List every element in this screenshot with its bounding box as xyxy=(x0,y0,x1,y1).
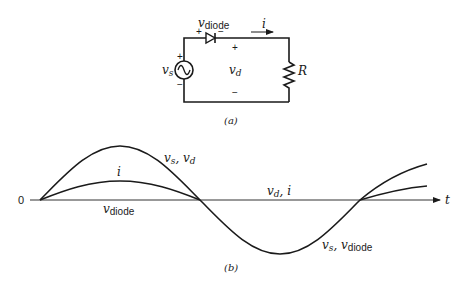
caption-a: (a) xyxy=(224,115,238,126)
vs-vd-label: vs, vd xyxy=(164,151,196,166)
vd-i-label: vd, i xyxy=(267,184,291,199)
diode-plus-sign: + xyxy=(196,26,202,37)
load-minus-sign: − xyxy=(232,87,238,98)
waveform-plot: 0 t vs, vd i vdiode vd, i vs, vdiode (b) xyxy=(18,146,450,273)
wire-top-left xyxy=(184,38,206,61)
i-label: i xyxy=(117,165,121,179)
caption-b: (b) xyxy=(224,262,238,273)
diagram-canvas: vdiode + − i + − vs + vd − R (a) 0 t vs,… xyxy=(0,0,459,283)
origin-label: 0 xyxy=(18,194,24,206)
ac-source-icon xyxy=(175,61,193,79)
load-voltage-label: vd xyxy=(229,63,242,78)
current-label: i xyxy=(262,17,266,31)
vs-vdiode-label: vs, vdiode xyxy=(322,238,373,253)
i-curve xyxy=(40,181,200,200)
load-plus-sign: + xyxy=(232,42,238,53)
vdiode-label: vdiode xyxy=(103,202,135,217)
time-axis-label: t xyxy=(445,193,450,207)
source-minus-sign: − xyxy=(177,79,183,90)
source-plus-sign: + xyxy=(177,51,183,62)
wire-top-right xyxy=(215,38,289,62)
resistor-label: R xyxy=(297,64,307,78)
diode-minus-sign: − xyxy=(218,26,224,37)
resistor-icon xyxy=(284,62,294,102)
diode-icon xyxy=(206,33,215,43)
circuit-schematic: vdiode + − i + − vs + vd − R (a) xyxy=(162,16,307,126)
diode-voltage-label: vdiode xyxy=(198,16,230,31)
source-voltage-label: vs xyxy=(162,63,174,78)
